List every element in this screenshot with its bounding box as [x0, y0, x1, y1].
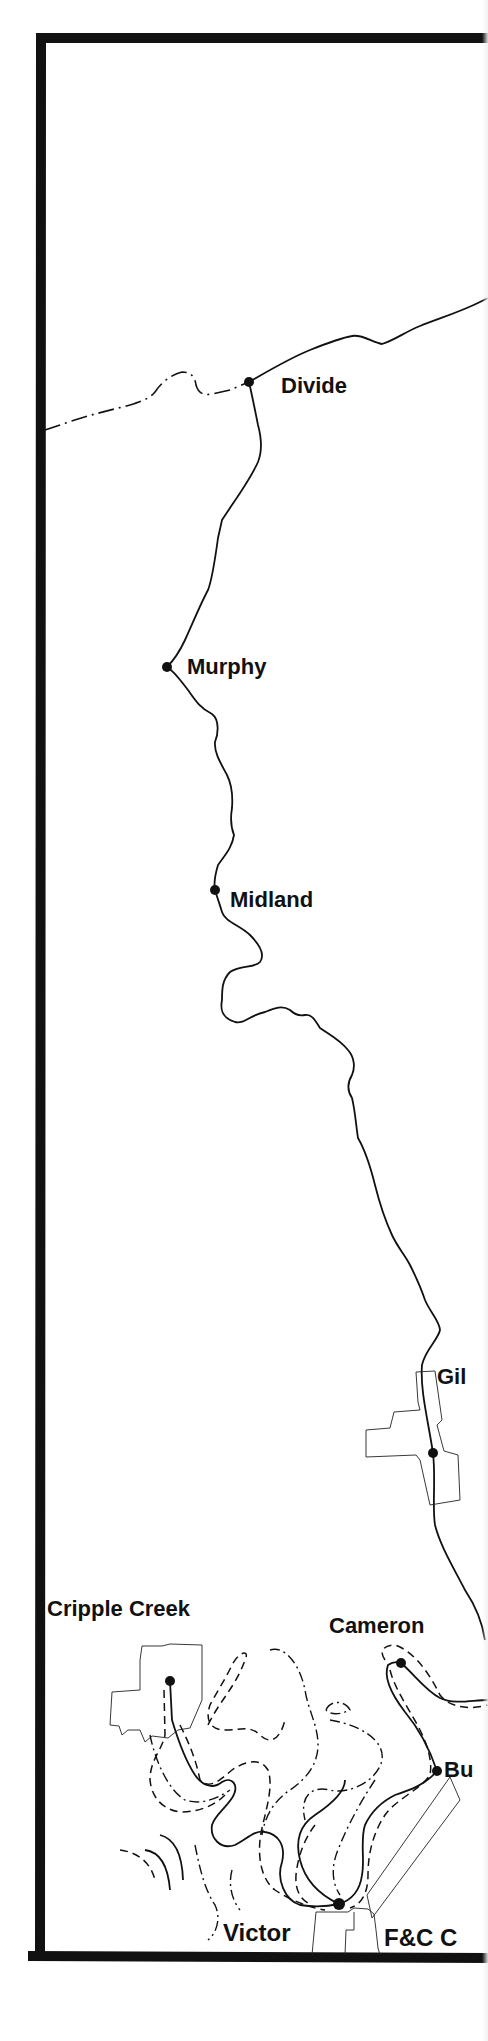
- label-cripple-creek: Cripple Creek: [47, 1598, 190, 1620]
- label-gillett: Gil: [437, 1366, 466, 1388]
- district-dash-dot-lines: [150, 1649, 382, 1940]
- station-dot-murphy: [162, 662, 172, 672]
- label-victor: Victor: [223, 1921, 291, 1945]
- label-midland: Midland: [230, 889, 313, 911]
- label-divide: Divide: [281, 375, 347, 397]
- station-dot-cameron: [396, 1658, 406, 1668]
- label-bull-hill: Bu: [444, 1759, 473, 1781]
- gillett-town-boundary: [366, 1371, 460, 1505]
- station-dot-divide: [244, 377, 254, 387]
- label-fcc: F&C C: [384, 1926, 457, 1950]
- map-canvas: [0, 0, 488, 2041]
- page-edge-shadow: [482, 0, 488, 2041]
- colorado-midland-line: [45, 298, 488, 430]
- station-dot-victor: [333, 1898, 345, 1910]
- victor-town-boundary: [312, 1908, 380, 1955]
- district-solid-lines: [145, 1662, 488, 1906]
- label-murphy: Murphy: [187, 656, 266, 678]
- bull-hill-boundary: [367, 1777, 460, 1918]
- label-cameron: Cameron: [329, 1615, 424, 1637]
- railroad-map: Divide Murphy Midland Gil Cripple Creek …: [0, 0, 488, 2041]
- station-dot-gillett: [428, 1448, 438, 1458]
- station-dot-bull-hill: [432, 1766, 442, 1776]
- cripple-creek-town-boundary: [110, 1644, 202, 1742]
- station-dot-cripple-creek: [165, 1676, 175, 1686]
- station-dot-midland: [210, 885, 220, 895]
